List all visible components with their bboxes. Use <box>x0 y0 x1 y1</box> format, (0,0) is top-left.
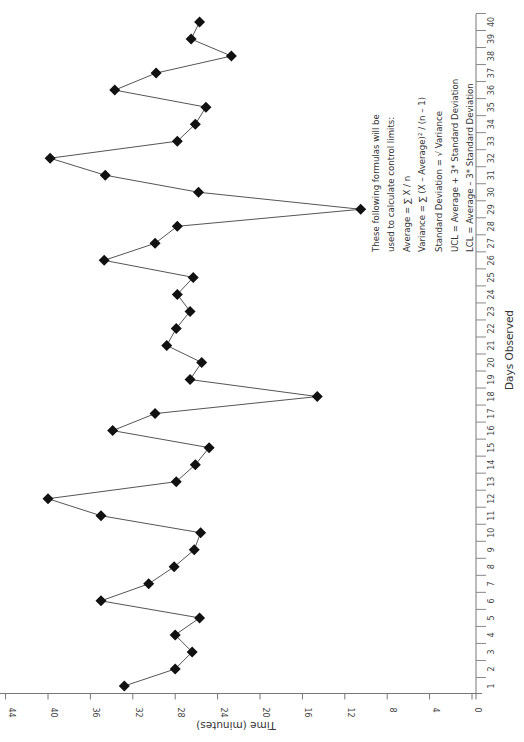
data-point-diamond-icon <box>194 612 205 623</box>
day-tick-label: 40 <box>487 17 496 27</box>
data-point-diamond-icon <box>194 17 205 28</box>
day-tick-label: 3 <box>487 649 496 654</box>
data-point-diamond-icon <box>99 255 110 266</box>
day-tick-label: 19 <box>487 374 496 384</box>
days-axis-title: Days Observed <box>503 310 515 390</box>
time-axis-title: Time (minutes) <box>196 720 277 732</box>
series-line <box>48 22 361 686</box>
time-tick-label: 12 <box>346 708 355 718</box>
annotation-line: used to calculate control limits: <box>386 117 396 252</box>
days-axis: 1234567891011121314151617181920212223242… <box>476 13 496 699</box>
data-point-diamond-icon <box>119 681 130 692</box>
data-point-diamond-icon <box>150 408 161 419</box>
annotation-line: These following formulas will be <box>371 114 381 253</box>
data-point-diamond-icon <box>185 374 196 385</box>
day-tick-label: 16 <box>487 426 496 436</box>
data-point-diamond-icon <box>185 306 196 317</box>
data-point-diamond-icon <box>107 425 118 436</box>
day-tick-label: 18 <box>487 391 496 401</box>
day-tick-label: 29 <box>487 204 496 214</box>
day-tick-label: 7 <box>487 581 496 586</box>
day-tick-label: 24 <box>487 289 496 299</box>
time-tick-label: 28 <box>176 708 185 718</box>
time-tick-label: 8 <box>388 708 397 713</box>
day-tick-label: 15 <box>487 443 496 453</box>
day-tick-label: 17 <box>487 408 496 418</box>
formula-annotation: These following formulas will beused to … <box>371 79 475 253</box>
day-tick-label: 31 <box>487 170 496 180</box>
data-point-diamond-icon <box>172 221 183 232</box>
day-tick-label: 30 <box>487 187 496 197</box>
data-point-diamond-icon <box>196 357 207 368</box>
data-point-diamond-icon <box>171 323 182 334</box>
data-point-diamond-icon <box>312 391 323 402</box>
data-point-diamond-icon <box>226 51 237 62</box>
data-point-diamond-icon <box>200 102 211 113</box>
time-tick-label: 44 <box>7 708 16 718</box>
day-tick-label: 32 <box>487 153 496 163</box>
day-tick-label: 23 <box>487 306 496 316</box>
time-tick-label: 36 <box>91 708 100 718</box>
data-point-diamond-icon <box>193 187 204 198</box>
annotation-line: Variance = ∑ (X – Average)² / (n – 1) <box>417 97 427 252</box>
day-tick-label: 37 <box>487 68 496 78</box>
day-tick-label: 21 <box>487 340 496 350</box>
time-tick-label: 4 <box>431 708 440 713</box>
data-series <box>43 17 367 692</box>
day-tick-label: 13 <box>487 477 496 487</box>
data-point-diamond-icon <box>96 510 107 521</box>
data-point-diamond-icon <box>45 153 56 164</box>
time-tick-label: 16 <box>303 708 312 718</box>
time-tick-label: 32 <box>134 708 143 718</box>
data-point-diamond-icon <box>186 34 197 45</box>
annotation-line: LCL = Average – 3* Standard Deviation <box>465 83 475 252</box>
day-tick-label: 14 <box>487 460 496 470</box>
day-tick-label: 20 <box>487 357 496 367</box>
day-tick-label: 9 <box>487 547 496 552</box>
day-tick-label: 2 <box>487 666 496 671</box>
data-point-diamond-icon <box>161 340 172 351</box>
control-chart: 048121620242832364044 123456789101112131… <box>0 0 524 742</box>
time-tick-label: 40 <box>49 708 58 718</box>
day-tick-label: 22 <box>487 323 496 333</box>
time-tick-label: 0 <box>473 708 482 713</box>
day-tick-label: 12 <box>487 494 496 504</box>
day-tick-label: 28 <box>487 221 496 231</box>
day-tick-label: 35 <box>487 102 496 112</box>
time-axis: 048121620242832364044 <box>0 694 482 718</box>
annotation-line: Average = ∑ X / n <box>402 176 412 252</box>
day-tick-label: 38 <box>487 51 496 61</box>
data-point-diamond-icon <box>109 85 120 96</box>
day-tick-label: 26 <box>487 255 496 265</box>
day-tick-label: 1 <box>487 683 496 688</box>
day-tick-label: 39 <box>487 34 496 44</box>
day-tick-label: 27 <box>487 238 496 248</box>
day-tick-label: 33 <box>487 136 496 146</box>
data-point-diamond-icon <box>100 170 111 181</box>
day-tick-label: 10 <box>487 528 496 538</box>
data-point-diamond-icon <box>204 442 215 453</box>
day-tick-label: 4 <box>487 632 496 637</box>
time-tick-label: 20 <box>261 708 270 718</box>
day-tick-label: 34 <box>487 119 496 129</box>
time-tick-label: 24 <box>219 708 228 718</box>
day-tick-label: 5 <box>487 615 496 620</box>
data-point-diamond-icon <box>150 238 161 249</box>
data-point-diamond-icon <box>195 527 206 538</box>
annotation-line: Standard Deviation = √ Variance <box>434 111 444 252</box>
data-point-diamond-icon <box>151 68 162 79</box>
data-point-diamond-icon <box>43 493 54 504</box>
day-tick-label: 25 <box>487 272 496 282</box>
annotation-line: UCL = Average + 3* Standard Deviation <box>450 79 460 252</box>
day-tick-label: 11 <box>487 511 496 521</box>
data-point-diamond-icon <box>355 204 366 215</box>
day-tick-label: 6 <box>487 598 496 603</box>
data-point-diamond-icon <box>96 595 107 606</box>
day-tick-label: 36 <box>487 85 496 95</box>
data-point-diamond-icon <box>143 578 154 589</box>
day-tick-label: 8 <box>487 564 496 569</box>
